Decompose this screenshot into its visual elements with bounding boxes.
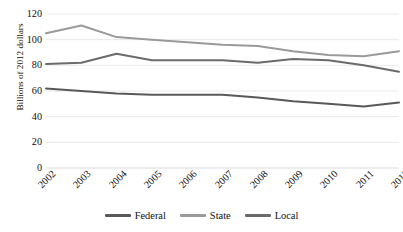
y-axis-tick-labels: 020406080100120 [14, 0, 42, 232]
y-tick-label: 40 [14, 112, 42, 122]
legend-swatch-icon [245, 214, 271, 216]
legend-item-federal[interactable]: Federal [105, 210, 166, 221]
plot-svg [46, 14, 399, 168]
x-axis-tick-labels: 2002200320042005200620072008200920102011… [46, 168, 399, 208]
line-chart-figure: Billions of 2012 dollars 020406080100120… [0, 0, 403, 232]
y-tick-label: 0 [14, 163, 42, 173]
y-tick-label: 20 [14, 137, 42, 147]
series-line-state [46, 26, 399, 57]
y-tick-label: 100 [14, 35, 42, 45]
y-tick-label: 60 [14, 86, 42, 96]
legend-label: Local [275, 210, 299, 221]
legend-item-state[interactable]: State [180, 210, 231, 221]
chart-legend: FederalStateLocal [0, 210, 403, 221]
y-tick-label: 120 [14, 9, 42, 19]
legend-label: Federal [135, 210, 166, 221]
legend-label: State [210, 210, 231, 221]
plot-area [46, 14, 399, 168]
legend-swatch-icon [180, 214, 206, 216]
legend-item-local[interactable]: Local [245, 210, 299, 221]
y-tick-label: 80 [14, 60, 42, 70]
legend-swatch-icon [105, 214, 131, 216]
